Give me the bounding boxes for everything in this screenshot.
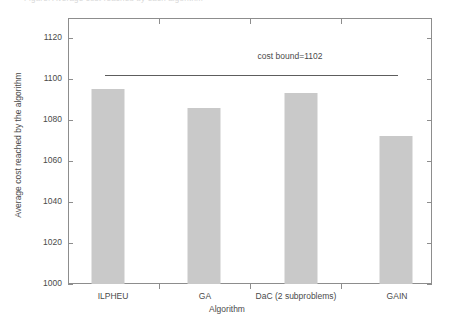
xtick-mark-top-3: [341, 19, 342, 24]
y-axis-title: Average cost reached by the algorithm: [13, 45, 23, 245]
bar-gain[interactable]: [380, 136, 413, 284]
ytick-label-1000: 1000: [43, 278, 62, 288]
cost-bound-line: [105, 75, 398, 76]
xtick-label-ga: GA: [199, 291, 211, 301]
xtick-label-dac: DaC (2 subproblems): [256, 291, 337, 301]
xtick-label-ilpheu: ILPHEU: [98, 291, 129, 301]
ytick-mark-left-1100: [68, 79, 73, 80]
ytick-mark-left-1000: [68, 284, 73, 285]
x-axis-title: Algorithm: [0, 304, 454, 314]
ytick-mark-right-1080: [427, 120, 432, 121]
ytick-mark-right-1020: [427, 243, 432, 244]
ytick-mark-left-1080: [68, 120, 73, 121]
ytick-label-1100: 1100: [44, 73, 62, 83]
ytick-label-1040: 1040: [43, 196, 62, 206]
ytick-mark-right-1100: [427, 79, 432, 80]
ytick-label-1060: 1060: [43, 155, 62, 165]
ytick-mark-left-1020: [68, 243, 73, 244]
xtick-mark-bottom-2: [250, 284, 251, 289]
bar-dac[interactable]: [285, 93, 318, 284]
ytick-mark-left-1060: [68, 161, 73, 162]
ytick-mark-right-1120: [427, 38, 432, 39]
xtick-mark-bottom-1: [159, 284, 160, 289]
cropped-caption-text: Figure: Average cost reached by each alg…: [24, 0, 203, 3]
ytick-mark-right-1060: [427, 161, 432, 162]
cost-bound-label: cost bound=1102: [258, 51, 323, 61]
xtick-mark-top-1: [159, 19, 160, 24]
ytick-mark-right-1000: [427, 284, 432, 285]
ytick-mark-left-1120: [68, 38, 73, 39]
ytick-mark-right-1040: [427, 202, 432, 203]
bar-ga[interactable]: [188, 108, 221, 284]
xtick-mark-bottom-3: [341, 284, 342, 289]
bar-ilpheu[interactable]: [92, 89, 125, 284]
bar-chart-figure: Figure: Average cost reached by each alg…: [0, 0, 454, 324]
ytick-mark-left-1040: [68, 202, 73, 203]
ytick-label-1120: 1120: [44, 32, 62, 42]
cropped-caption-strip: Figure: Average cost reached by each alg…: [0, 0, 454, 10]
ytick-label-1020: 1020: [43, 237, 62, 247]
xtick-label-gain: GAIN: [387, 291, 408, 301]
xtick-mark-top-2: [250, 19, 251, 24]
ytick-label-1080: 1080: [43, 114, 62, 124]
